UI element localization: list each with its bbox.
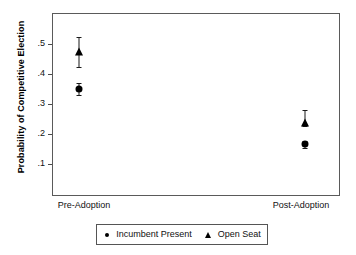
x-tick-label-pre-adoption: Pre-Adoption	[58, 200, 111, 210]
y-tick-1: .4	[0, 74, 52, 75]
y-tick-label-4: .1	[37, 157, 45, 170]
y-tick-label-1: .4	[37, 67, 45, 80]
y-tick-label-2: .3	[37, 97, 45, 110]
y-tick-2: .3	[0, 104, 52, 105]
y-tick-label-3: .2	[37, 127, 45, 140]
error-cap-upper	[303, 110, 308, 111]
circle-marker-icon	[103, 230, 112, 239]
plot-area	[52, 13, 340, 196]
error-cap-lower	[77, 67, 82, 68]
legend-item-open-seat: Open Seat	[205, 229, 261, 240]
y-tick-label-0: .5	[37, 37, 45, 50]
error-cap-upper	[77, 37, 82, 38]
legend: Incumbent Present Open Seat	[96, 224, 268, 245]
y-tick-4: .1	[0, 164, 52, 165]
error-cap-upper	[77, 83, 82, 84]
triangle-marker-icon	[75, 48, 83, 56]
error-cap-lower	[303, 148, 308, 149]
circle-marker-icon	[76, 86, 83, 93]
y-tick-0: .5	[0, 44, 52, 45]
error-cap-lower	[77, 95, 82, 96]
legend-item-incumbent-present: Incumbent Present	[103, 229, 192, 240]
circle-marker-icon	[302, 141, 309, 148]
figure-canvas: Probability of Competitive Election .5 .…	[0, 0, 356, 255]
legend-label-incumbent-present: Incumbent Present	[116, 229, 192, 240]
y-tick-3: .2	[0, 134, 52, 135]
triangle-marker-icon	[205, 230, 214, 239]
triangle-marker-icon	[301, 119, 309, 127]
x-tick-label-post-adoption: Post-Adoption	[273, 200, 330, 210]
legend-label-open-seat: Open Seat	[218, 229, 261, 240]
